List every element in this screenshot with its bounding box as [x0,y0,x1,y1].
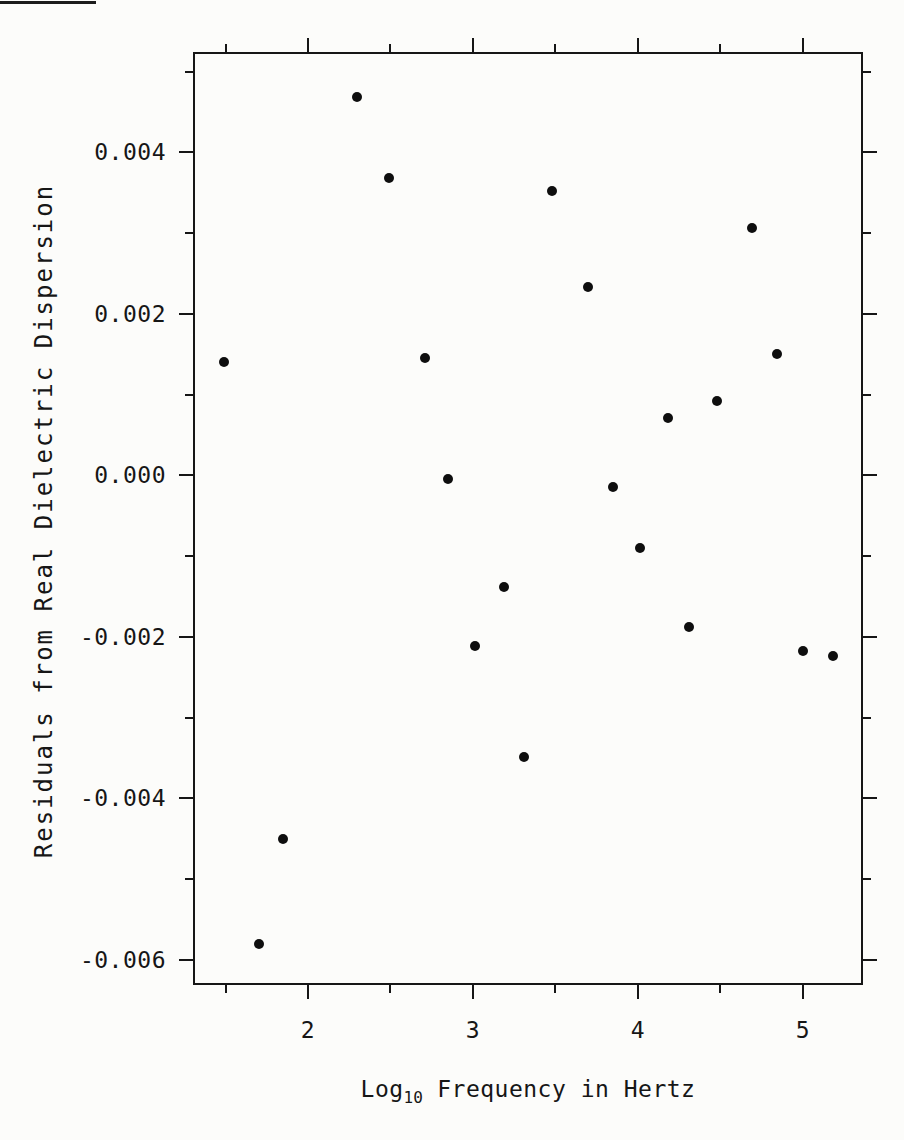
y-tick-minor [185,878,194,880]
x-tick-minor [554,984,556,993]
y-tick-minor [862,878,871,880]
y-tick-minor [862,394,871,396]
y-tick-minor [862,71,871,73]
y-tick-label: 0.002 [58,301,166,327]
scatter-point [635,543,645,553]
x-tick-minor [225,44,227,53]
y-tick-minor [862,232,871,234]
scatter-plot-figure: 23450.0040.0020.000-0.002-0.004-0.006 Lo… [0,0,904,1140]
x-tick-minor [719,984,721,993]
x-tick-major [472,38,474,53]
y-tick-major [862,313,877,315]
scatter-point [470,641,480,651]
scatter-point [278,834,288,844]
y-tick-label: -0.006 [58,947,166,973]
scatter-point [608,482,618,492]
scatter-point [352,92,362,102]
scatter-point [499,582,509,592]
x-axis-title-pre: Log [361,1076,404,1102]
y-axis-title: Residuals from Real Dielectric Dispersio… [29,53,59,989]
y-tick-minor [185,232,194,234]
x-tick-minor [719,44,721,53]
scatter-point [254,939,264,949]
x-axis-title-subscript: 10 [404,1088,423,1107]
y-tick-major [179,151,194,153]
x-tick-minor [389,984,391,993]
x-tick-minor [389,44,391,53]
y-tick-major [862,636,877,638]
y-tick-label: -0.002 [58,624,166,650]
x-tick-label: 2 [278,1018,338,1042]
y-tick-minor [862,717,871,719]
x-tick-major [472,984,474,999]
x-tick-label: 4 [608,1018,668,1042]
y-tick-minor [185,394,194,396]
x-tick-major [802,984,804,999]
y-tick-major [862,474,877,476]
y-tick-minor [862,555,871,557]
scatter-point [547,186,557,196]
scatter-point [384,173,394,183]
scatter-point [798,646,808,656]
y-tick-major [862,151,877,153]
y-tick-minor [185,71,194,73]
scatter-point [420,353,430,363]
x-tick-label: 3 [443,1018,503,1042]
y-tick-major [179,474,194,476]
x-tick-minor [225,984,227,993]
scatter-point [663,413,673,423]
y-tick-label: -0.004 [58,785,166,811]
x-tick-major [307,984,309,999]
x-tick-minor [554,44,556,53]
plot-frame [193,52,863,985]
y-tick-major [179,313,194,315]
y-tick-minor [185,555,194,557]
scatter-point [583,282,593,292]
y-tick-label: 0.000 [58,462,166,488]
scatter-point [747,223,757,233]
x-tick-major [637,984,639,999]
y-tick-major [179,959,194,961]
scatter-point [712,396,722,406]
y-tick-major [862,959,877,961]
x-tick-major [802,38,804,53]
y-tick-major [862,797,877,799]
scatter-point [772,349,782,359]
y-tick-minor [185,717,194,719]
scatter-point [828,651,838,661]
x-tick-label: 5 [773,1018,833,1042]
y-tick-major [179,797,194,799]
x-tick-major [307,38,309,53]
y-tick-label: 0.004 [58,139,166,165]
scatter-point [519,752,529,762]
x-axis-title-post: Frequency in Hertz [423,1076,696,1102]
scatter-point [443,474,453,484]
x-axis-title: Log10 Frequency in Hertz [194,1074,862,1104]
y-tick-major [179,636,194,638]
x-tick-major [637,38,639,53]
scan-edge-artifact [0,1,96,4]
scatter-point [684,622,694,632]
scatter-point [219,357,229,367]
